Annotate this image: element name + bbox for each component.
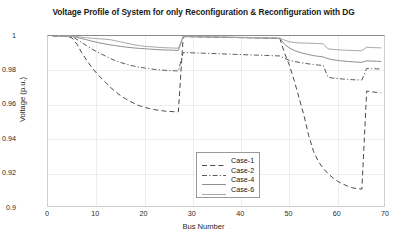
y-tick-label: 1 [0,31,16,40]
legend-item[interactable]: Case-4 [201,175,254,185]
x-tick-label: 0 [27,209,67,218]
legend-label: Case-6 [231,185,254,194]
legend-label: Case-2 [231,166,254,175]
legend-label: Case-1 [231,156,254,165]
chart-legend: Case-1Case-2Case-4Case-6 [196,152,260,198]
y-tick-label: 0.92 [0,168,16,177]
legend-swatch-case-1 [201,156,227,165]
legend-swatch-case-2 [201,166,227,175]
x-tick-label: 40 [220,209,260,218]
x-tick-label: 50 [268,209,308,218]
chart-title: Voltage Profile of System for only Recon… [0,7,407,17]
x-tick-label: 70 [365,209,405,218]
legend-swatch-case-4 [201,175,227,184]
x-tick-label: 30 [172,209,212,218]
y-axis-label: Voltage (p.u.) [18,30,27,170]
x-tick-label: 20 [124,209,164,218]
y-tick-label: 0.96 [0,99,16,108]
legend-swatch-case-6 [201,185,227,194]
y-tick-label: 0.9 [0,203,16,212]
x-tick-label: 60 [317,209,357,218]
x-axis-label: Bus Number [0,222,407,231]
y-tick-label: 0.94 [0,134,16,143]
chart-figure: Voltage Profile of System for only Recon… [0,0,407,241]
x-tick-label: 10 [75,209,115,218]
y-tick-label: 0.98 [0,65,16,74]
legend-item[interactable]: Case-2 [201,166,254,176]
legend-label: Case-4 [231,175,254,184]
legend-item[interactable]: Case-6 [201,185,254,195]
legend-item[interactable]: Case-1 [201,156,254,166]
series-line-case-2 [53,36,381,80]
